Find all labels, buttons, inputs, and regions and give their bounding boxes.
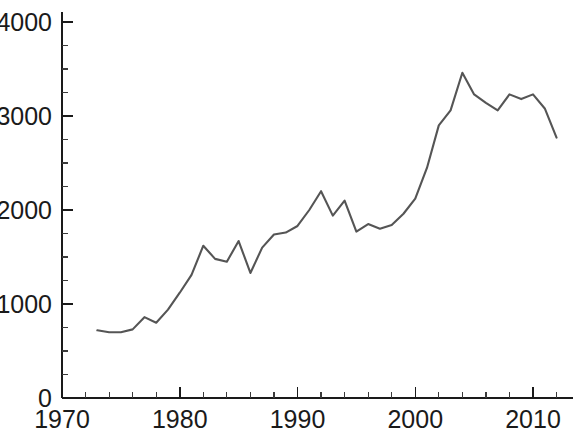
y-tick-label-1000: 1000 — [0, 290, 52, 318]
y-tick-label-4000: 4000 — [0, 8, 52, 36]
x-tick-label-1990: 1990 — [270, 405, 326, 433]
chart-container: 01000200030004000 19701980199020002010 — [0, 0, 573, 435]
x-tick-label-1970: 1970 — [34, 405, 90, 433]
y-tick-label-2000: 2000 — [0, 196, 52, 224]
plot-background — [0, 0, 573, 435]
x-tick-label-2000: 2000 — [387, 405, 443, 433]
x-tick-label-1980: 1980 — [152, 405, 208, 433]
x-tick-label-2010: 2010 — [505, 405, 561, 433]
y-tick-label-3000: 3000 — [0, 102, 52, 130]
line-chart: 01000200030004000 19701980199020002010 — [0, 0, 573, 435]
